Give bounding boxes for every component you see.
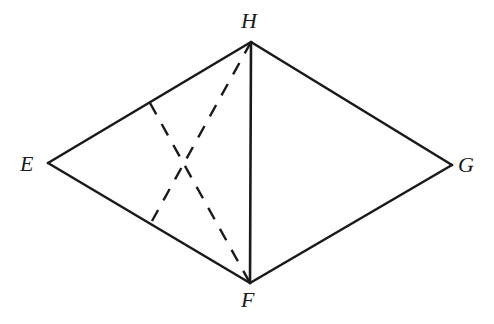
edge-G-F xyxy=(250,165,452,283)
edge-H-F xyxy=(250,42,251,283)
vertex-label-H: H xyxy=(241,10,257,32)
edge-E-H xyxy=(48,42,251,163)
geometry-canvas xyxy=(0,0,494,324)
vertex-label-G: G xyxy=(458,154,474,176)
vertex-label-F: F xyxy=(241,289,254,311)
geometry-diagram: E G H F xyxy=(0,0,494,324)
edge-H-G xyxy=(251,42,452,165)
edge-F-E xyxy=(48,163,250,283)
vertex-label-E: E xyxy=(20,153,33,175)
dashed-segment-1 xyxy=(150,103,250,283)
